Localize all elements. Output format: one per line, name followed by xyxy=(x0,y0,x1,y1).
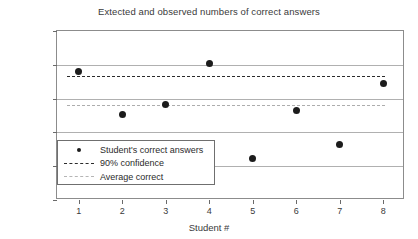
x-tick-mark xyxy=(209,200,210,204)
y-tick-mark xyxy=(53,99,57,100)
chart-figure: Extected and observed numbers of correct… xyxy=(0,0,418,239)
x-tick-mark xyxy=(79,200,80,204)
gridline xyxy=(57,65,403,66)
data-point xyxy=(336,141,343,148)
x-tick-label: 4 xyxy=(197,206,221,216)
x-axis-label: Student # xyxy=(0,222,418,233)
data-point xyxy=(249,155,256,162)
y-tick-mark xyxy=(53,132,57,133)
gridline xyxy=(57,99,403,100)
dashed-line-icon xyxy=(64,163,94,164)
x-tick-label: 6 xyxy=(284,206,308,216)
x-tick-mark xyxy=(383,200,384,204)
legend-label: 90% confidence xyxy=(100,158,164,168)
x-tick-label: 8 xyxy=(371,206,395,216)
legend-key-dash-dot-line xyxy=(58,170,100,184)
x-tick-label: 3 xyxy=(154,206,178,216)
legend-item: Average correct xyxy=(58,170,214,184)
y-tick-mark xyxy=(53,200,57,201)
y-tick-mark xyxy=(53,65,57,66)
data-point xyxy=(293,107,300,114)
chart-legend: Student's correct answers90% confidenceA… xyxy=(57,140,215,185)
chart-title: Extected and observed numbers of correct… xyxy=(0,6,418,17)
x-tick-mark xyxy=(340,200,341,204)
data-point xyxy=(206,60,213,67)
reference-line xyxy=(67,76,386,77)
legend-item: Student's correct answers xyxy=(58,143,214,157)
x-tick-mark xyxy=(166,200,167,204)
dash-dot-line-icon xyxy=(64,176,94,177)
legend-key-dashed-line xyxy=(58,157,100,171)
x-tick-mark xyxy=(253,200,254,204)
x-tick-mark xyxy=(122,200,123,204)
x-tick-label: 5 xyxy=(241,206,265,216)
gridline xyxy=(57,132,403,133)
y-tick-mark xyxy=(53,31,57,32)
data-point xyxy=(75,68,82,75)
x-tick-mark xyxy=(296,200,297,204)
x-tick-label: 7 xyxy=(328,206,352,216)
legend-label: Student's correct answers xyxy=(100,145,203,155)
legend-item: 90% confidence xyxy=(58,157,214,171)
x-tick-label: 1 xyxy=(67,206,91,216)
legend-label: Average correct xyxy=(100,172,163,182)
x-tick-label: 2 xyxy=(110,206,134,216)
data-point xyxy=(119,111,126,118)
legend-key-marker-dot xyxy=(58,143,100,157)
data-point xyxy=(162,101,169,108)
marker-dot-icon xyxy=(77,148,82,153)
reference-line xyxy=(67,105,386,106)
data-point xyxy=(380,80,387,87)
